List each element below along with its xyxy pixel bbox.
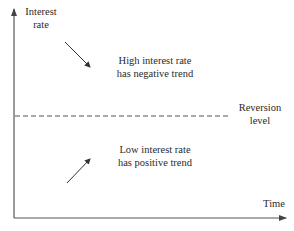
positive-trend-arrow-icon	[67, 159, 90, 183]
mean-reversion-diagram: Interest rate High interest rate has neg…	[0, 0, 294, 231]
x-axis-label-text: Time	[258, 198, 290, 211]
reversion-level-label-line2: level	[234, 115, 286, 128]
y-axis-label-line2: rate	[20, 19, 62, 32]
low-rate-label-line1: Low interest rate	[105, 144, 205, 157]
y-axis-label-line1: Interest	[20, 6, 62, 19]
negative-trend-arrow-icon	[65, 42, 90, 67]
x-axis-label: Time	[258, 198, 290, 211]
reversion-level-label: Reversion level	[234, 102, 286, 127]
low-rate-label: Low interest rate has positive trend	[105, 144, 205, 169]
reversion-level-label-line1: Reversion	[234, 102, 286, 115]
high-rate-label-line2: has negative trend	[105, 68, 205, 81]
high-rate-label-line1: High interest rate	[105, 55, 205, 68]
low-rate-label-line2: has positive trend	[105, 157, 205, 170]
y-axis-label: Interest rate	[20, 6, 62, 31]
high-rate-label: High interest rate has negative trend	[105, 55, 205, 80]
